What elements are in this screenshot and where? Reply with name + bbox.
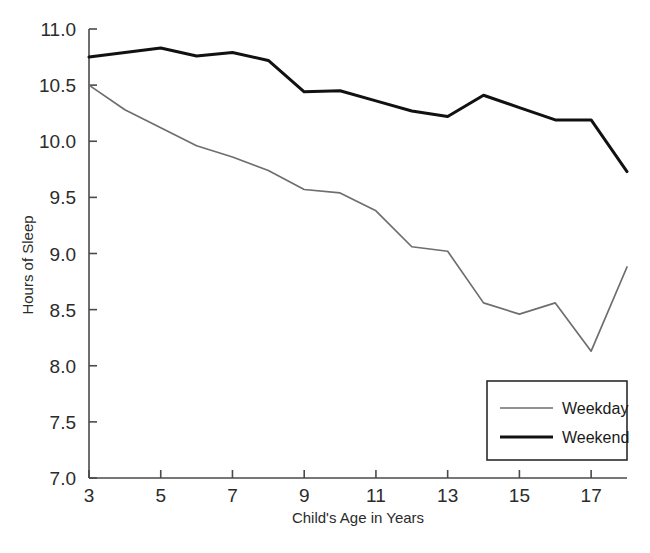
y-tick-label: 7.0 <box>50 468 76 489</box>
y-tick-label: 8.0 <box>50 356 76 377</box>
x-axis-tick-marks <box>89 470 591 478</box>
chart-canvas: 7.07.58.08.59.09.510.010.511.0 357911131… <box>0 0 650 553</box>
y-tick-label: 9.0 <box>50 244 76 265</box>
sleep-hours-line-chart: 7.07.58.08.59.09.510.010.511.0 357911131… <box>0 0 650 553</box>
y-tick-label: 10.0 <box>39 131 76 152</box>
x-tick-label: 13 <box>437 485 458 506</box>
y-tick-label: 11.0 <box>40 19 76 40</box>
x-tick-label: 15 <box>509 485 530 506</box>
data-series-group <box>89 48 627 351</box>
x-tick-label: 17 <box>581 485 602 506</box>
y-tick-label: 8.5 <box>50 300 76 321</box>
x-tick-label: 7 <box>227 485 238 506</box>
x-axis-tick-labels: 357911131517 <box>84 485 602 506</box>
legend-box <box>487 381 627 460</box>
series-line-weekday <box>89 85 627 351</box>
y-axis-tick-labels: 7.07.58.08.59.09.510.010.511.0 <box>39 19 76 489</box>
y-tick-label: 7.5 <box>50 412 76 433</box>
y-tick-label: 9.5 <box>50 187 76 208</box>
legend-label-weekend: Weekend <box>562 429 629 446</box>
y-axis-tick-marks <box>89 29 97 478</box>
y-axis-title: Hours of Sleep <box>19 215 36 314</box>
x-tick-label: 5 <box>155 485 166 506</box>
y-tick-label: 10.5 <box>39 75 76 96</box>
legend-label-weekday: Weekday <box>562 400 628 417</box>
legend: Weekday Weekend <box>487 381 629 460</box>
x-tick-label: 9 <box>299 485 310 506</box>
x-tick-label: 11 <box>366 485 386 506</box>
x-tick-label: 3 <box>84 485 95 506</box>
x-axis-title: Child's Age in Years <box>292 509 424 526</box>
series-line-weekend <box>89 48 627 171</box>
